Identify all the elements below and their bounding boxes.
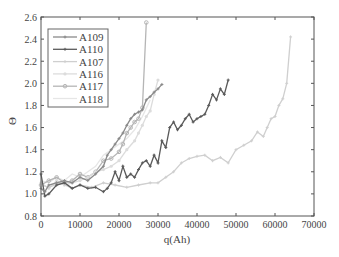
x-axis-label: q(Ah) bbox=[164, 233, 191, 246]
y-tick-label: 2.6 bbox=[25, 12, 38, 23]
x-tick-label: 0 bbox=[39, 219, 44, 230]
y-tick-label: 2.2 bbox=[25, 56, 38, 67]
legend-label: A110 bbox=[79, 43, 104, 55]
x-tick-label: 10000 bbox=[68, 219, 93, 230]
x-tick-label: 20000 bbox=[107, 219, 132, 230]
legend: A109A110A107A116A117A118 bbox=[48, 29, 108, 107]
x-tick-label: 70000 bbox=[302, 219, 327, 230]
legend-label: A117 bbox=[79, 80, 104, 92]
legend-label: A118 bbox=[79, 93, 104, 105]
y-tick-label: 1.2 bbox=[25, 166, 38, 177]
x-tick-label: 50000 bbox=[224, 219, 249, 230]
legend-label: A109 bbox=[79, 31, 104, 43]
legend-label: A107 bbox=[79, 56, 104, 68]
x-tick-label: 40000 bbox=[185, 219, 210, 230]
y-tick-label: 1.8 bbox=[25, 100, 38, 111]
y-tick-label: 0.8 bbox=[25, 211, 38, 222]
y-tick-label: 1.4 bbox=[25, 144, 38, 155]
x-tick-label: 30000 bbox=[146, 219, 171, 230]
legend-label: A116 bbox=[79, 68, 104, 80]
chart: 010000200003000040000500006000070000 0.8… bbox=[0, 0, 339, 257]
y-axis-label: Θ bbox=[6, 117, 18, 125]
y-tick-label: 2.4 bbox=[25, 34, 38, 45]
y-tick-label: 2.0 bbox=[25, 78, 38, 89]
y-tick-label: 1.0 bbox=[25, 188, 38, 199]
x-tick-label: 60000 bbox=[263, 219, 288, 230]
y-tick-label: 1.6 bbox=[25, 122, 38, 133]
